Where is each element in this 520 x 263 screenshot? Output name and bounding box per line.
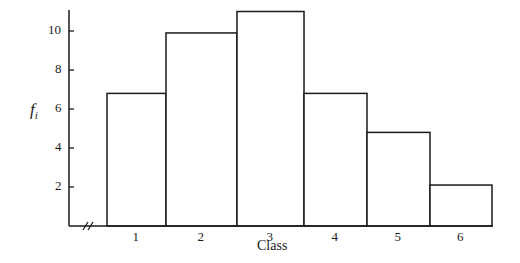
y-tick-label: 8 (55, 61, 62, 77)
x-tick-label: 1 (133, 229, 140, 245)
bar-class-6 (430, 185, 492, 226)
y-tick-label: 4 (55, 139, 62, 155)
y-tick-label: 2 (55, 178, 62, 194)
y-tick-label: 10 (48, 22, 61, 38)
x-tick-label: 6 (457, 229, 464, 245)
bar-class-3 (237, 12, 304, 227)
y-tick-label: 6 (55, 100, 62, 116)
histogram-chart (0, 0, 520, 263)
bar-class-5 (367, 132, 430, 226)
x-axis-label: Class (257, 238, 287, 254)
x-tick-label: 2 (198, 229, 205, 245)
x-tick-label: 5 (395, 229, 402, 245)
y-axis-label: fi (30, 100, 38, 121)
bar-class-2 (166, 33, 237, 226)
bar-class-4 (304, 93, 367, 226)
bars (107, 12, 492, 227)
bar-class-1 (107, 93, 166, 226)
x-tick-label: 4 (332, 229, 339, 245)
